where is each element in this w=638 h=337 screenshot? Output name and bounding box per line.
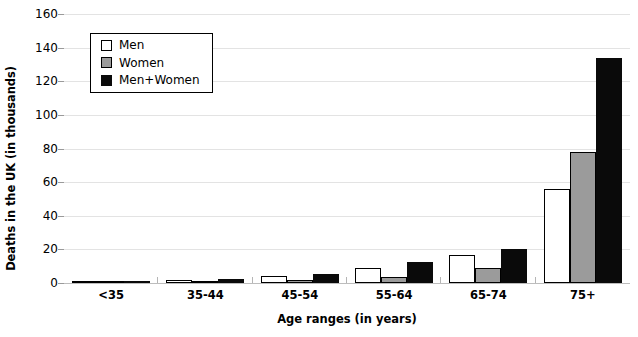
- legend-item[interactable]: Men+Women: [101, 74, 200, 87]
- y-axis-tick-labels: 020406080100120140160: [22, 0, 58, 337]
- bar[interactable]: [72, 281, 98, 283]
- x-axis-tick-label: 75+: [536, 288, 630, 308]
- x-axis-tick-label: <35: [64, 288, 158, 308]
- bar[interactable]: [218, 279, 244, 283]
- bar[interactable]: [313, 274, 339, 283]
- legend-item-label: Men+Women: [119, 74, 200, 87]
- gridline: [64, 283, 630, 284]
- bar-group: [253, 14, 347, 283]
- bar[interactable]: [475, 268, 501, 283]
- y-axis-tickmark: [58, 115, 64, 116]
- bar[interactable]: [501, 249, 527, 283]
- legend: MenWomenMen+Women: [90, 33, 213, 93]
- bar[interactable]: [261, 276, 287, 283]
- legend-item-label: Men: [119, 39, 144, 52]
- x-axis-tick-label: 65-74: [441, 288, 535, 308]
- bar[interactable]: [192, 281, 218, 283]
- y-axis-title: Deaths in the UK (in thousands): [0, 0, 22, 337]
- legend-item[interactable]: Women: [101, 57, 200, 70]
- y-axis-tick-label: 100: [24, 109, 58, 121]
- bar-group: [347, 14, 441, 283]
- y-axis-tickmark: [58, 249, 64, 250]
- bar[interactable]: [287, 280, 313, 283]
- y-axis-tick-label: 80: [24, 143, 58, 155]
- y-axis-tick-label: 40: [24, 210, 58, 222]
- y-axis-tick-label: 160: [24, 8, 58, 20]
- y-axis-tickmark: [58, 149, 64, 150]
- x-axis-tick-label: 55-64: [347, 288, 441, 308]
- bar[interactable]: [124, 281, 150, 283]
- y-axis-tick-label: 60: [24, 176, 58, 188]
- bar[interactable]: [407, 262, 433, 283]
- white-square-icon: [101, 40, 112, 51]
- y-axis-tick-label: 140: [24, 42, 58, 54]
- y-axis-tickmark: [58, 48, 64, 49]
- bar[interactable]: [544, 189, 570, 283]
- x-axis-tick-label: 45-54: [253, 288, 347, 308]
- y-axis-tickmark: [58, 81, 64, 82]
- x-axis-tick-labels: <3535-4445-5455-6465-7475+: [64, 288, 630, 308]
- x-axis-title: Age ranges (in years): [64, 312, 630, 326]
- legend-item[interactable]: Men: [101, 39, 200, 52]
- y-axis-tick-label: 20: [24, 243, 58, 255]
- gray-square-icon: [101, 57, 112, 68]
- bar-group: [441, 14, 535, 283]
- bar[interactable]: [98, 281, 124, 283]
- y-axis-tickmark: [58, 182, 64, 183]
- bar[interactable]: [570, 152, 596, 283]
- bar-chart: Deaths in the UK (in thousands) 02040608…: [0, 0, 638, 337]
- y-axis-tickmark: [58, 216, 64, 217]
- black-square-icon: [101, 75, 112, 86]
- bar[interactable]: [166, 280, 192, 283]
- x-axis-tick-label: 35-44: [158, 288, 252, 308]
- bar[interactable]: [449, 255, 475, 283]
- bar-group: [536, 14, 630, 283]
- legend-item-label: Women: [119, 57, 164, 70]
- bar[interactable]: [596, 58, 622, 283]
- y-axis-tick-label: 120: [24, 75, 58, 87]
- y-axis-tick-label: 0: [24, 277, 58, 289]
- y-axis-tickmark: [58, 283, 64, 284]
- bar[interactable]: [355, 268, 381, 283]
- bar[interactable]: [381, 277, 407, 283]
- y-axis-tickmark: [58, 14, 64, 15]
